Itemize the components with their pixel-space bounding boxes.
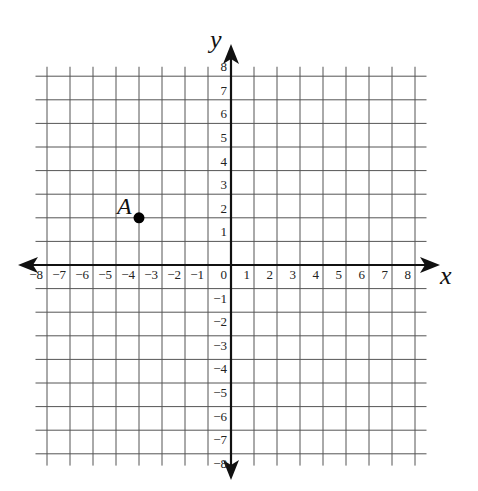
x-tick-label: 5	[336, 267, 343, 282]
y-tick-label: 5	[221, 130, 228, 145]
x-tick-label: 1	[244, 267, 251, 282]
x-tick-label: −8	[29, 267, 43, 282]
x-tick-label: −5	[98, 267, 112, 282]
point-a	[134, 212, 145, 223]
y-tick-label: −7	[213, 432, 227, 447]
coordinate-plane: x y −8−7−6−5−4−3−2−101234567812345678−1−…	[0, 0, 478, 491]
x-tick-label: −3	[144, 267, 158, 282]
y-tick-label: 8	[221, 59, 228, 74]
y-tick-label: 4	[221, 154, 228, 169]
x-tick-label: 7	[382, 267, 389, 282]
x-tick-label: 8	[405, 267, 412, 282]
y-tick-label: −6	[213, 409, 227, 424]
y-tick-label: −4	[213, 361, 227, 376]
x-tick-label: 3	[290, 267, 297, 282]
y-tick-label: −5	[213, 385, 227, 400]
y-tick-label: −1	[213, 291, 227, 306]
x-tick-label: −2	[167, 267, 181, 282]
x-tick-label: 4	[313, 267, 320, 282]
x-tick-label: −1	[190, 267, 204, 282]
y-tick-label: 1	[221, 224, 228, 239]
x-axis-label: x	[439, 261, 452, 290]
x-tick-label: −4	[121, 267, 135, 282]
y-tick-label: −2	[213, 314, 227, 329]
axes: x y	[18, 25, 452, 480]
y-tick-label: 6	[221, 106, 228, 121]
point-label: A	[115, 193, 132, 219]
x-tick-label: −7	[52, 267, 66, 282]
y-tick-label: 3	[221, 177, 228, 192]
x-tick-label: 2	[267, 267, 274, 282]
y-axis-label: y	[207, 25, 222, 54]
y-tick-label: 7	[221, 83, 228, 98]
y-tick-label: −8	[213, 456, 227, 471]
x-tick-label: −6	[75, 267, 89, 282]
y-tick-label: 2	[221, 201, 228, 216]
x-tick-label: 6	[359, 267, 366, 282]
x-tick-label: 0	[221, 267, 228, 282]
y-tick-label: −3	[213, 338, 227, 353]
plotted-points: A	[115, 193, 145, 224]
